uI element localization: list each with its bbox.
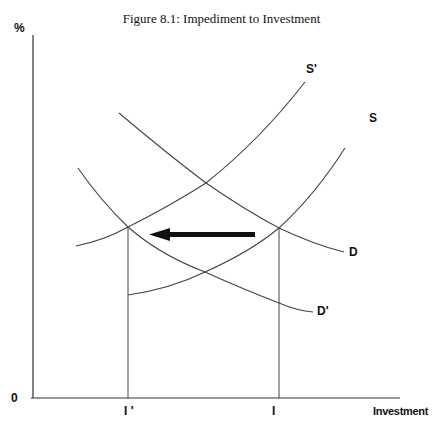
tick-label-i: I bbox=[272, 405, 275, 417]
curve-label-s: S bbox=[369, 112, 377, 124]
chart-plot bbox=[0, 0, 443, 428]
curve-label-d-prime: D' bbox=[317, 305, 329, 317]
tick-label-i-prime: I ' bbox=[124, 405, 134, 417]
x-axis-label: Investment bbox=[373, 406, 428, 417]
curve-s-prime bbox=[76, 82, 305, 246]
curve-s bbox=[128, 148, 345, 295]
shift-arrow bbox=[149, 228, 255, 241]
curve-label-s-prime: S' bbox=[306, 63, 317, 75]
origin-label: 0 bbox=[11, 392, 18, 404]
y-axis-label: % bbox=[14, 22, 25, 34]
curve-d bbox=[119, 113, 344, 252]
curve-label-d: D bbox=[349, 246, 358, 258]
